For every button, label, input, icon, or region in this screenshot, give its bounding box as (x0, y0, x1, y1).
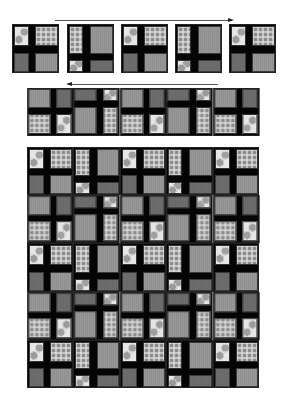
patch-tl-lg (56, 114, 71, 134)
patch-tl-lg (14, 26, 29, 46)
block-quilt-r1-c1 (27, 147, 73, 195)
patch-br-mid (236, 175, 258, 194)
patch-br-mid (252, 53, 275, 72)
patch-tl-lg (242, 114, 257, 134)
patch-bl-lg (196, 293, 210, 305)
patch-tl-lg (122, 342, 137, 362)
patch-tr-sm (214, 221, 236, 241)
patch-tl-lg (29, 149, 44, 169)
patch-tr-mid (198, 26, 221, 54)
patch-bl-dark (215, 368, 230, 387)
patch-br-mid (143, 175, 165, 194)
patch-tr-mid (97, 149, 119, 176)
patch-br-mid (143, 272, 165, 291)
patch-tl-lg (215, 342, 230, 362)
patch-tr-sm (50, 342, 72, 362)
patch-tr-sm (28, 221, 50, 241)
patch-bl-dark (122, 368, 137, 387)
patch-bl-dark (149, 89, 164, 108)
patch-tr-sm (143, 342, 165, 362)
patch-bl-lg (196, 196, 210, 208)
block-quilt-r4-c4 (166, 292, 212, 340)
patch-br-mid (50, 175, 72, 194)
block-quilt-r4-c1 (27, 292, 73, 340)
patch-tr-mid (167, 107, 189, 134)
block-quilt-r5-c1 (27, 340, 73, 388)
patch-bl-dark (56, 89, 71, 108)
patch-tl-lg (231, 26, 246, 46)
patch-br-dark (74, 293, 96, 305)
block-step1-1 (12, 24, 59, 73)
arrow-left-icon (68, 84, 218, 85)
patch-br-mid (236, 368, 258, 387)
patch-tr-mid (189, 149, 211, 176)
patch-tl-lg (149, 318, 164, 338)
block-quilt-r4-c5 (213, 292, 259, 340)
patch-tr-mid (97, 245, 119, 272)
patch-tl-lg (122, 245, 137, 265)
patch-tr-mid (74, 214, 96, 241)
block-quilt-r1-c2 (73, 147, 119, 195)
block-step2-4 (166, 88, 212, 136)
patch-tr-mid (74, 311, 96, 338)
patch-tr-sm (236, 149, 258, 169)
patch-tl-sm (104, 311, 118, 338)
patch-tr-sm (121, 221, 143, 241)
block-quilt-r4-c2 (73, 292, 119, 340)
patch-tr-sm (28, 114, 50, 134)
patch-br-dark (90, 60, 113, 72)
patch-br-dark (167, 196, 189, 208)
patch-br-mid (144, 53, 167, 72)
patch-tr-sm (35, 26, 58, 46)
patch-br-mid (143, 368, 165, 387)
patch-tr-sm (28, 318, 50, 338)
patch-br-dark (198, 60, 221, 72)
patch-tl-sm (177, 26, 191, 54)
patch-br-dark (97, 375, 119, 387)
patch-bl-dark (242, 89, 257, 108)
patch-bl-lg (104, 293, 118, 305)
patch-tl-lg (242, 318, 257, 338)
patch-bl-dark (122, 272, 137, 291)
patch-tr-sm (121, 318, 143, 338)
patch-tl-lg (149, 114, 164, 134)
block-step2-3 (120, 88, 166, 136)
patch-br-mid (28, 293, 50, 312)
patch-tl-sm (168, 245, 182, 272)
patch-br-dark (74, 89, 96, 101)
patch-bl-dark (215, 175, 230, 194)
block-step2-2 (73, 88, 119, 136)
patch-tl-lg (242, 221, 257, 241)
patch-tl-lg (215, 149, 230, 169)
block-quilt-r3-c5 (213, 243, 259, 291)
patch-bl-lg (196, 89, 210, 101)
patch-bl-lg (75, 375, 89, 387)
patch-br-dark (189, 375, 211, 387)
patch-bl-dark (149, 196, 164, 215)
arrowhead-icon (66, 82, 72, 86)
block-quilt-r2-c4 (166, 195, 212, 243)
patch-bl-dark (123, 53, 138, 72)
patch-br-dark (189, 279, 211, 291)
patch-tl-sm (168, 149, 182, 176)
patch-tr-sm (143, 245, 165, 265)
patch-bl-dark (242, 196, 257, 215)
patch-bl-lg (168, 279, 182, 291)
block-quilt-r5-c3 (120, 340, 166, 388)
patch-tl-sm (69, 26, 83, 54)
block-quilt-r2-c1 (27, 195, 73, 243)
patch-bl-dark (29, 368, 44, 387)
patch-bl-dark (122, 175, 137, 194)
patch-tl-sm (75, 149, 89, 176)
patch-tr-mid (74, 107, 96, 134)
patch-br-dark (189, 182, 211, 194)
block-quilt-r5-c5 (213, 340, 259, 388)
block-step1-2 (67, 24, 114, 73)
patch-br-mid (121, 293, 143, 312)
patch-bl-lg (75, 279, 89, 291)
block-quilt-r1-c3 (120, 147, 166, 195)
patch-br-dark (74, 196, 96, 208)
patch-tl-sm (196, 214, 210, 241)
patch-br-mid (121, 196, 143, 215)
patch-br-mid (35, 53, 58, 72)
